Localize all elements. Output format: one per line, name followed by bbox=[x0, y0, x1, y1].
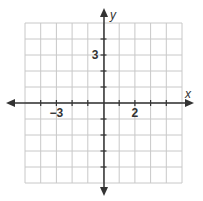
y-axis-down-arrow-icon bbox=[100, 187, 108, 196]
y-axis-up-arrow-icon bbox=[100, 8, 108, 17]
x-axis-left-arrow-icon bbox=[6, 99, 15, 107]
x-axis-label: x bbox=[184, 87, 192, 101]
x-tick-label: 2 bbox=[132, 106, 139, 120]
x-tick-label: −3 bbox=[50, 106, 64, 120]
y-axis-label: y bbox=[109, 8, 117, 22]
coordinate-plane: x y −323 bbox=[0, 0, 203, 201]
tick-labels: −323 bbox=[50, 48, 139, 120]
y-tick-label: 3 bbox=[92, 48, 99, 62]
